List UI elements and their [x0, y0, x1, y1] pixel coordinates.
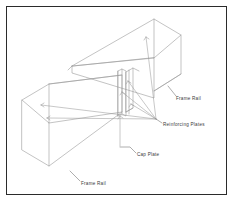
leader-frame-rail-upper	[168, 86, 176, 96]
upper-frame-rail	[68, 19, 181, 98]
callout-leaders	[70, 86, 176, 181]
frame-rail-joint-figure: Frame Rail Reinforcing Plates Cap Plate …	[0, 0, 234, 202]
leader-reinforcing-plates	[156, 119, 162, 123]
lower-frame-rail	[22, 75, 122, 166]
label-frame-rail-upper: Frame Rail	[176, 96, 201, 101]
cap-plate-geometry	[118, 69, 126, 116]
isometric-drawing: Frame Rail Reinforcing Plates Cap Plate …	[0, 0, 234, 202]
reinforcing-plate-geometry	[126, 68, 139, 114]
label-cap-plate: Cap Plate	[137, 152, 160, 157]
label-reinforcing-plates: Reinforcing Plates	[163, 122, 205, 127]
leader-frame-rail-lower	[70, 171, 80, 181]
leader-line-cap-plate	[118, 116, 123, 146]
label-frame-rail-lower: Frame Rail	[81, 181, 106, 186]
leader-cap-plate	[120, 147, 136, 153]
